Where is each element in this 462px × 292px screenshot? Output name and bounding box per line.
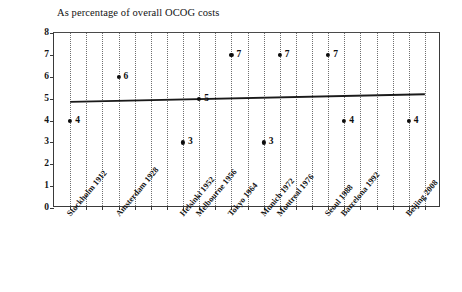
data-point-label: 7	[333, 50, 338, 60]
data-point-label: 7	[285, 50, 290, 60]
y-axis-label: 3	[37, 137, 49, 147]
data-point-label: 4	[414, 116, 419, 126]
data-point-label: 5	[204, 94, 209, 104]
y-axis-label: 2	[37, 159, 49, 169]
y-axis-label: 7	[37, 50, 49, 60]
y-axis-label: 1	[37, 181, 49, 191]
y-axis-tick	[50, 208, 54, 209]
data-point-label: 4	[75, 116, 80, 126]
y-axis-label: 5	[37, 94, 49, 104]
chart-title: As percentage of overall OCOG costs	[57, 7, 219, 18]
y-axis-label: 8	[37, 28, 49, 38]
chart-root: As percentage of overall OCOG costs 0123…	[0, 0, 462, 292]
y-axis-label: 4	[37, 116, 49, 126]
y-axis-label: 0	[37, 203, 49, 213]
data-point-label: 4	[349, 116, 354, 126]
data-point-label: 7	[236, 50, 241, 60]
data-point-label: 3	[188, 138, 193, 148]
data-point-label: 6	[124, 72, 129, 82]
trend-line	[54, 33, 441, 208]
plot-area: 012345678 4635737744	[53, 32, 440, 207]
data-point-label: 3	[269, 138, 274, 148]
y-axis-label: 6	[37, 72, 49, 82]
